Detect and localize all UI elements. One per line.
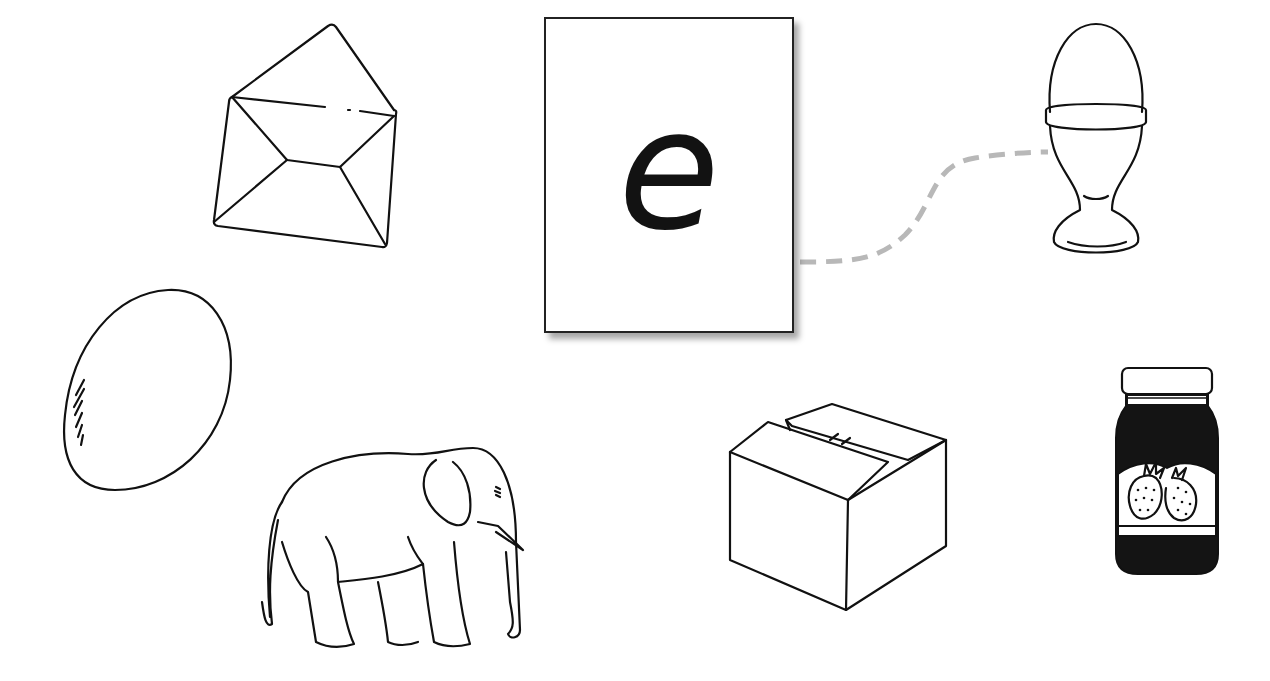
egg-picture[interactable]	[60, 285, 235, 495]
card-letter: e	[618, 89, 720, 254]
box-picture[interactable]	[728, 400, 946, 612]
letter-card[interactable]: e	[544, 17, 794, 333]
egg-cup-picture[interactable]	[1040, 20, 1152, 260]
egg-cup-icon	[1040, 20, 1152, 260]
egg-icon	[60, 285, 235, 495]
envelope-icon	[210, 22, 400, 250]
jam-jar-icon	[1114, 364, 1220, 576]
envelope-picture[interactable]	[210, 22, 400, 250]
jam-jar-picture[interactable]	[1114, 364, 1220, 576]
elephant-picture[interactable]	[258, 442, 528, 654]
box-icon	[728, 400, 946, 612]
elephant-icon	[258, 442, 528, 654]
